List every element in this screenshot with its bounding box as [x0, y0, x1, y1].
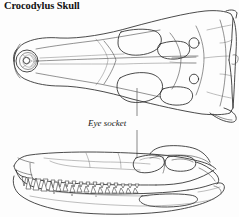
crocodylus-skull-figure: Crocodylus Skull	[0, 0, 239, 217]
dorsal-skull-view	[14, 10, 239, 122]
annotation-label-eye-socket: Eye socket	[88, 118, 126, 129]
dorsal-view-orbit	[117, 73, 163, 103]
skull-illustration	[0, 0, 239, 217]
foramen-lower	[189, 74, 198, 84]
foramen-upper	[189, 38, 199, 48]
lateral-skull-view	[13, 146, 224, 215]
external-naris	[16, 50, 38, 72]
